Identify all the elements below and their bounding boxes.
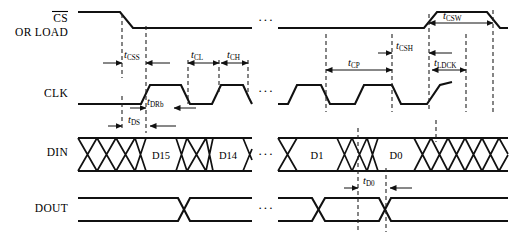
tcl-sub: CL [194,54,203,62]
waveform-dout-left [78,198,252,221]
din-cells-right-c [414,138,508,171]
waveform-clk-left [78,85,252,104]
timing-label-td0: tD0 [363,175,375,188]
waveform-dout-right [278,198,508,221]
tcp-sub: CP [351,62,360,70]
din-label-d14: D14 [219,150,238,161]
din-label-d1: D1 [311,150,324,161]
din-cells-left-c [243,138,252,171]
timing-diagram-canvas: CS OR LOAD CLK DIN DOUT ··· ··· ··· ··· [0,0,511,238]
tds-sub: DS [131,119,140,127]
ellipsis-dout: ··· [258,200,274,215]
timing-diagram-figure: CS OR LOAD CLK DIN DOUT ··· ··· ··· ··· [0,0,511,238]
tdrb-sub: DRb [150,101,164,109]
waveform-cs-right [278,12,508,28]
dout-left-upper [78,198,252,221]
timing-label-tdrb: tDRb [147,96,164,109]
ellipsis-clk: ··· [258,83,274,98]
tldck-sub: LDCK [437,62,457,70]
timing-label-tcp: tCP [348,57,360,70]
din-cells-left-a [78,138,146,171]
signal-label-din: DIN [47,146,69,158]
dout-left-lower [78,198,252,221]
timing-label-tcss: tCSS [124,49,140,62]
timing-label-tch: tCH [227,49,240,62]
signal-label-clk: CLK [44,87,68,99]
ellipsis-cs: ··· [258,12,274,27]
waveform-clk-right [278,82,452,104]
din-cells-left-b [176,138,213,171]
dout-right-lower [278,198,508,221]
timing-label-tcsh: tCSH [396,40,413,53]
tcss-sub: CSS [127,54,140,62]
signal-label-cs-text: CS [53,12,68,24]
ellipsis-din: ··· [258,146,274,161]
timing-label-tds: tDS [128,114,140,127]
tcsw-sub: CSW [446,15,462,23]
din-label-d15: D15 [152,150,170,161]
timing-label-tldck: tLDCK [434,57,457,70]
waveform-cs-left [78,12,252,28]
signal-label-cs: CS OR LOAD [15,12,68,39]
signal-label-cs-second: OR LOAD [15,26,68,38]
tch-sub: CH [230,54,240,62]
dout-right-upper [278,198,508,221]
din-cells-right-a [278,138,297,171]
signal-label-dout: DOUT [35,202,68,214]
tcsh-sub: CSH [399,45,413,53]
td0-sub: D0 [366,180,375,188]
din-label-d0: D0 [390,150,403,161]
timing-label-tcl: tCL [191,49,203,62]
